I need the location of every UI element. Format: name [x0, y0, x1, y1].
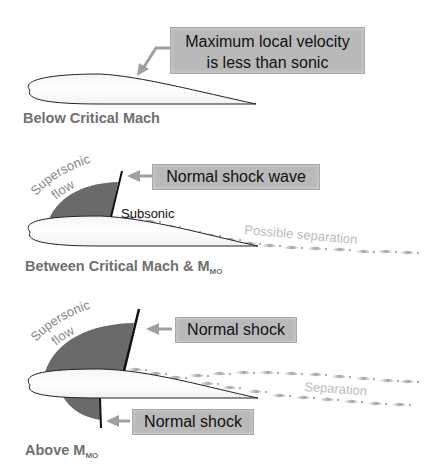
- callout-arrow-3-lower: [106, 415, 130, 427]
- caption-main: Between Critical Mach & M: [25, 258, 210, 274]
- caption-above-mmo: Above MMO: [25, 442, 98, 460]
- callout-box-normal-shock-lower: Normal shock: [132, 409, 254, 435]
- callout-arrow-3-upper: [146, 323, 172, 335]
- separation-label: Separation: [304, 379, 368, 398]
- callout-text: Normal shock: [144, 413, 242, 430]
- caption-subscript: MO: [210, 267, 223, 276]
- callout-arrow-1: [137, 48, 170, 76]
- airfoil-below-critical: [28, 74, 256, 104]
- caption-between-critical-mach-mmo: Between Critical Mach & MMO: [25, 258, 222, 276]
- callout-line-1: Maximum local velocity: [171, 31, 364, 52]
- callout-text: Normal shock wave: [166, 168, 306, 185]
- possible-separation-label: Possible separation: [244, 222, 358, 247]
- caption-main: Above M: [25, 442, 85, 458]
- callout-text: Normal shock: [187, 321, 285, 338]
- callout-box-normal-shock-wave: Normal shock wave: [152, 164, 320, 190]
- normal-shock-line-3-lower: [100, 398, 101, 428]
- supersonic-region-3-lower: [62, 395, 101, 420]
- callout-box-max-velocity: Maximum local velocity is less than soni…: [170, 27, 365, 74]
- caption-below-critical-mach: Below Critical Mach: [23, 110, 160, 126]
- callout-arrow-2: [127, 170, 152, 182]
- callout-box-normal-shock-upper: Normal shock: [175, 317, 297, 343]
- callout-line-2: is less than sonic: [171, 52, 364, 73]
- subsonic-label: Subsonic: [121, 206, 174, 221]
- caption-subscript: MO: [85, 451, 98, 460]
